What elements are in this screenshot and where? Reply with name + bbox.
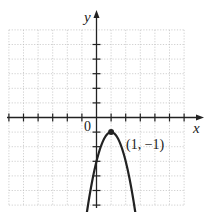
x-axis-label: x [192, 120, 200, 136]
parabola-chart: x y 0 (1, −1) [0, 0, 206, 212]
y-axis-label: y [82, 9, 91, 25]
vertex-annotation: (1, −1) [126, 137, 165, 153]
vertex-point [108, 129, 114, 135]
axes [7, 14, 200, 208]
origin-label: 0 [84, 119, 91, 134]
